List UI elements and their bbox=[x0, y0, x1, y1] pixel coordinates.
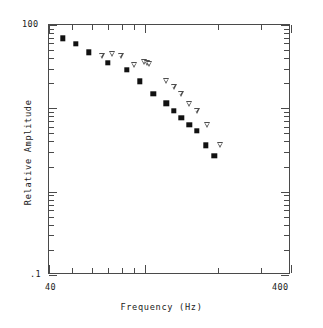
y-axis-tick bbox=[284, 43, 289, 44]
x-axis-tick bbox=[72, 25, 73, 30]
y-axis-tick bbox=[49, 116, 54, 117]
triangle-inner bbox=[218, 143, 222, 146]
y-axis-tick bbox=[284, 50, 289, 51]
y-axis-tick bbox=[49, 83, 54, 84]
y-axis-tick bbox=[284, 29, 289, 30]
y-axis-tick bbox=[49, 235, 54, 236]
x-axis-tick bbox=[108, 268, 109, 273]
y-axis-tick bbox=[49, 192, 57, 193]
y-axis-tick bbox=[49, 275, 57, 276]
y-axis-tick bbox=[284, 235, 289, 236]
y-axis-tick bbox=[49, 121, 54, 122]
x-axis-tick bbox=[218, 268, 219, 273]
triangle-inner bbox=[99, 54, 103, 57]
y-axis-title: Relative Amplitude bbox=[24, 72, 33, 232]
y-axis-tick bbox=[49, 152, 54, 153]
y-axis-tick bbox=[49, 127, 54, 128]
data-point-open-triangle-down bbox=[194, 108, 200, 114]
data-point-filled-square bbox=[137, 79, 142, 84]
data-point-filled-square bbox=[60, 36, 65, 41]
data-point-open-triangle-down bbox=[99, 53, 105, 59]
x-axis-tick bbox=[122, 25, 123, 30]
y-axis-tick bbox=[284, 200, 289, 201]
y-axis-tick bbox=[284, 33, 289, 34]
y-axis-tick bbox=[284, 210, 289, 211]
data-point-open-triangle-down bbox=[217, 142, 223, 148]
triangle-inner bbox=[205, 123, 209, 126]
y-axis-tick bbox=[49, 38, 54, 39]
y-axis-tick bbox=[49, 50, 54, 51]
data-point-filled-square bbox=[105, 60, 110, 65]
x-axis-tick bbox=[134, 268, 135, 273]
y-axis-tick bbox=[49, 58, 54, 59]
triangle-inner bbox=[171, 85, 175, 88]
y-axis-tick bbox=[281, 108, 289, 109]
x-axis-tick bbox=[92, 25, 93, 30]
data-point-open-triangle-down bbox=[118, 53, 124, 59]
y-axis-tick bbox=[49, 195, 54, 196]
triangle-inner bbox=[147, 62, 151, 65]
y-axis-tick bbox=[49, 29, 54, 30]
y-axis-tick bbox=[284, 217, 289, 218]
y-axis-tick bbox=[49, 112, 54, 113]
y-axis-tick bbox=[284, 38, 289, 39]
data-point-filled-square bbox=[86, 50, 91, 55]
data-point-filled-square bbox=[151, 91, 156, 96]
triangle-inner bbox=[194, 109, 198, 112]
data-point-open-triangle-down bbox=[186, 101, 192, 107]
triangle-inner bbox=[110, 52, 114, 55]
data-point-open-triangle-down bbox=[163, 78, 169, 84]
data-point-open-triangle-down bbox=[131, 62, 137, 68]
x-axis-tick bbox=[134, 25, 135, 30]
data-point-filled-square bbox=[212, 153, 217, 158]
triangle-inner bbox=[132, 63, 136, 66]
data-point-filled-square bbox=[203, 143, 208, 148]
x-axis-tick bbox=[218, 25, 219, 30]
data-point-filled-square bbox=[163, 101, 168, 106]
data-point-filled-square bbox=[73, 41, 78, 46]
y-axis-tick bbox=[284, 205, 289, 206]
y-axis-tick bbox=[284, 83, 289, 84]
x-axis-tick bbox=[145, 265, 146, 273]
y-axis-tick bbox=[49, 225, 54, 226]
y-axis-max-label: 100 bbox=[22, 20, 39, 29]
x-axis-min-label: 40 bbox=[45, 283, 56, 292]
y-axis-tick bbox=[284, 121, 289, 122]
data-point-open-triangle-down bbox=[171, 84, 177, 90]
y-axis-tick bbox=[49, 108, 57, 109]
plot-area bbox=[49, 25, 289, 273]
data-point-filled-square bbox=[194, 128, 199, 133]
y-axis-tick bbox=[284, 127, 289, 128]
y-axis-tick bbox=[49, 133, 54, 134]
y-axis-tick bbox=[49, 250, 54, 251]
y-axis-tick bbox=[284, 195, 289, 196]
triangle-inner bbox=[178, 92, 182, 95]
x-axis-tick bbox=[291, 25, 292, 33]
y-axis-tick bbox=[284, 152, 289, 153]
x-axis-max-label: 400 bbox=[272, 283, 289, 292]
y-axis-tick bbox=[281, 192, 289, 193]
y-axis-tick bbox=[49, 200, 54, 201]
y-axis-tick bbox=[49, 43, 54, 44]
y-axis-tick bbox=[284, 69, 289, 70]
plot-frame bbox=[48, 24, 290, 274]
x-axis-tick bbox=[261, 25, 262, 30]
y-axis-tick bbox=[284, 250, 289, 251]
data-point-open-triangle-down bbox=[178, 91, 184, 97]
y-axis-tick bbox=[49, 217, 54, 218]
y-axis-tick bbox=[284, 167, 289, 168]
data-point-filled-square bbox=[187, 122, 192, 127]
x-axis-tick bbox=[261, 268, 262, 273]
x-axis-title: Frequency (Hz) bbox=[0, 303, 323, 312]
data-point-filled-square bbox=[171, 108, 176, 113]
x-axis-tick bbox=[108, 25, 109, 30]
chart-figure: Relative Amplitude 100 .1 40 400 Frequen… bbox=[0, 0, 323, 328]
data-point-filled-square bbox=[124, 67, 129, 72]
y-axis-min-label: .1 bbox=[30, 270, 41, 279]
y-axis-tick bbox=[281, 275, 289, 276]
y-axis-tick bbox=[284, 133, 289, 134]
triangle-inner bbox=[187, 102, 191, 105]
data-point-open-triangle-down bbox=[146, 61, 152, 67]
y-axis-tick bbox=[284, 112, 289, 113]
x-axis-tick bbox=[122, 268, 123, 273]
